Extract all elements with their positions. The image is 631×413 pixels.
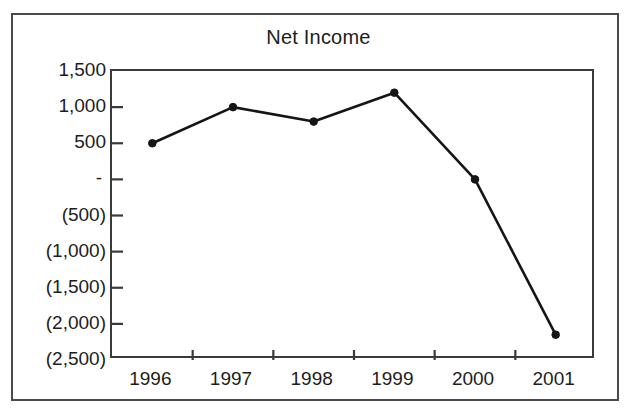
data-line (152, 93, 555, 335)
y-tick-label: 1,500 (14, 60, 106, 79)
data-point-marker (471, 176, 479, 184)
data-point-marker (310, 118, 318, 126)
chart-title: Net Income (0, 26, 631, 49)
x-tick-label: 1999 (352, 364, 433, 394)
data-point-marker (229, 103, 237, 111)
chart-title-text: Net Income (266, 26, 370, 49)
data-point-marker (552, 331, 560, 339)
plot-area (110, 69, 594, 358)
x-tick-label: 1998 (271, 364, 352, 394)
chart-screenshot: Net Income 1,5001,000500-(500)(1,000)(1,… (0, 0, 631, 413)
x-tick-label: 1997 (191, 364, 272, 394)
data-point-marker (149, 139, 157, 147)
y-tick-label: 500 (14, 132, 106, 151)
y-axis-tick-labels: 1,5001,000500-(500)(1,000)(1,500)(2,000)… (14, 69, 106, 358)
data-point-marker (391, 89, 399, 97)
x-axis-tick-labels: 199619971998199920002001 (110, 364, 594, 394)
x-tick-label: 2000 (433, 364, 514, 394)
y-tick-label: (1,500) (14, 276, 106, 295)
x-tick-label: 1996 (110, 364, 191, 394)
line-series-svg (112, 71, 596, 360)
y-tick-label: - (14, 168, 106, 187)
y-tick-label: (500) (14, 204, 106, 223)
y-tick-label: (1,000) (14, 240, 106, 259)
y-tick-label: (2,500) (14, 349, 106, 368)
y-tick-label: 1,000 (14, 96, 106, 115)
y-tick-label: (2,000) (14, 312, 106, 331)
x-tick-label: 2001 (513, 364, 594, 394)
